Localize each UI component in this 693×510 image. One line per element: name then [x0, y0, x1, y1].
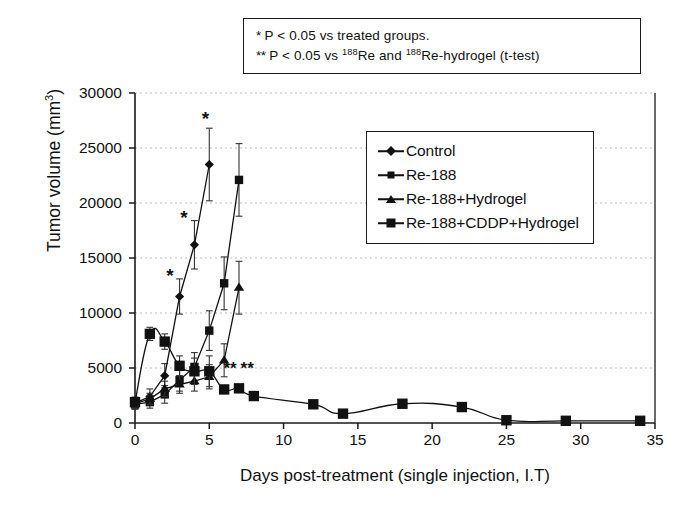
- data-point-diamond: [205, 160, 214, 169]
- data-point-square: [174, 361, 184, 371]
- annotation-line-2: ** P < 0.05 vs 188Re and 188Re-hydrogel …: [256, 46, 630, 66]
- data-point-square: [235, 176, 243, 184]
- legend-item-re188-hydrogel[interactable]: Re-188+Hydrogel: [376, 187, 579, 211]
- data-point-square: [308, 399, 318, 409]
- annotation-line-1-text: P < 0.05 vs treated groups.: [261, 28, 430, 43]
- legend-label-control: Control: [406, 142, 455, 160]
- plot-area: *******: [0, 0, 693, 510]
- data-point-diamond: [175, 292, 184, 301]
- annotation-line-2-text-c: Re-hydrogel (t-test): [421, 48, 539, 63]
- diamond-marker-icon: [376, 142, 406, 160]
- legend-item-re188-cddp-hydrogel[interactable]: Re-188+CDDP+Hydrogel: [376, 211, 579, 235]
- annotation-line-1: * P < 0.05 vs treated groups.: [256, 26, 630, 46]
- annotation-line-2-text-b: Re and: [358, 48, 406, 63]
- data-point-square: [219, 384, 229, 394]
- significance-marker: *: [180, 207, 188, 228]
- data-point-square: [249, 391, 259, 401]
- data-point-square: [160, 336, 170, 346]
- annotation-line-2-text-a: P < 0.05 vs: [266, 48, 342, 63]
- data-point-square: [234, 383, 244, 393]
- data-point-square: [397, 399, 407, 409]
- legend-item-control[interactable]: Control: [376, 139, 579, 163]
- chart-legend: Control Re-188 Re-188+Hydrogel Re-188+CD…: [366, 131, 594, 244]
- data-point-square: [457, 402, 467, 412]
- isotope-superscript-1: 188: [342, 47, 358, 57]
- data-point-triangle: [234, 283, 244, 291]
- data-point-square: [501, 415, 511, 425]
- significance-marker: **: [223, 359, 237, 378]
- legend-label-re188-hydrogel: Re-188+Hydrogel: [406, 190, 526, 208]
- data-point-square: [205, 326, 213, 334]
- large-square-marker-icon: [376, 214, 406, 232]
- isotope-superscript-2: 188: [406, 47, 422, 57]
- data-point-square: [220, 279, 228, 287]
- figure-container: * P < 0.05 vs treated groups. ** P < 0.0…: [0, 0, 693, 510]
- data-point-square: [189, 366, 199, 376]
- data-point-diamond: [160, 371, 169, 380]
- data-point-square: [338, 408, 348, 418]
- triangle-marker-icon: [376, 190, 406, 208]
- data-point-square: [145, 329, 155, 339]
- legend-label-re188-cddp-hydrogel: Re-188+CDDP+Hydrogel: [406, 214, 579, 232]
- significance-marker: **: [241, 359, 255, 378]
- significance-marker: *: [166, 265, 174, 286]
- significance-annotation-box: * P < 0.05 vs treated groups. ** P < 0.0…: [243, 18, 641, 74]
- data-point-square: [561, 416, 571, 426]
- small-square-marker-icon: [376, 166, 406, 184]
- double-star-symbol: **: [256, 48, 266, 63]
- data-point-square: [635, 416, 645, 426]
- data-point-square: [204, 366, 214, 376]
- legend-label-re188: Re-188: [406, 166, 456, 184]
- legend-item-re188[interactable]: Re-188: [376, 163, 579, 187]
- data-point-square: [130, 397, 140, 407]
- significance-marker: *: [202, 108, 210, 129]
- data-point-diamond: [190, 240, 199, 249]
